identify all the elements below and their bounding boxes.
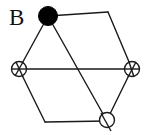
figure-container: B	[0, 0, 150, 135]
edge-bottom	[45, 121, 107, 122]
vertex-top-left-filled-marker	[39, 7, 58, 26]
edge-upper-right	[108, 12, 132, 69]
figure-label: B	[9, 6, 24, 29]
